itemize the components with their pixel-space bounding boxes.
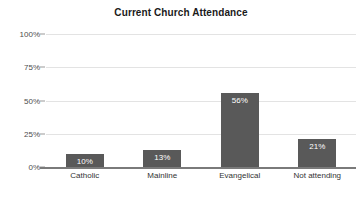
bar-not-attending[interactable]: 21% <box>298 139 336 167</box>
bar-mainline[interactable]: 13% <box>143 150 181 167</box>
bar-group-evangelical: 56% <box>201 34 279 167</box>
bar-group-not-attending: 21% <box>279 34 357 167</box>
bar-value-catholic: 10% <box>66 157 104 166</box>
y-tick-mark-50 <box>40 100 45 101</box>
bar-evangelical[interactable]: 56% <box>221 93 259 167</box>
y-tick-mark-75 <box>40 67 45 68</box>
x-axis-line <box>40 167 356 169</box>
x-tick-label-catholic: Catholic <box>46 171 124 180</box>
y-tick-label-50: 50% <box>6 96 40 105</box>
plot-area: 10% 13% 56% 21% <box>46 34 356 167</box>
x-tick-label-evangelical: Evangelical <box>201 171 279 180</box>
bar-chart: Current Church Attendance 100% 75% 50% 2… <box>0 0 362 197</box>
x-tick-label-mainline: Mainline <box>124 171 202 180</box>
y-tick-label-100: 100% <box>6 30 40 39</box>
x-tick-label-not-attending: Not attending <box>279 171 357 180</box>
bar-group-mainline: 13% <box>124 34 202 167</box>
bar-catholic[interactable]: 10% <box>66 154 104 167</box>
bar-value-evangelical: 56% <box>221 96 259 105</box>
y-tick-mark-100 <box>40 34 45 35</box>
bar-group-catholic: 10% <box>46 34 124 167</box>
bar-value-not-attending: 21% <box>298 142 336 151</box>
y-tick-label-75: 75% <box>6 63 40 72</box>
y-axis: 100% 75% 50% 25% 0% <box>0 0 40 197</box>
y-tick-mark-25 <box>40 133 45 134</box>
y-tick-label-25: 25% <box>6 129 40 138</box>
chart-title: Current Church Attendance <box>0 7 362 18</box>
bar-value-mainline: 13% <box>143 153 181 162</box>
y-tick-label-0: 0% <box>6 163 40 172</box>
